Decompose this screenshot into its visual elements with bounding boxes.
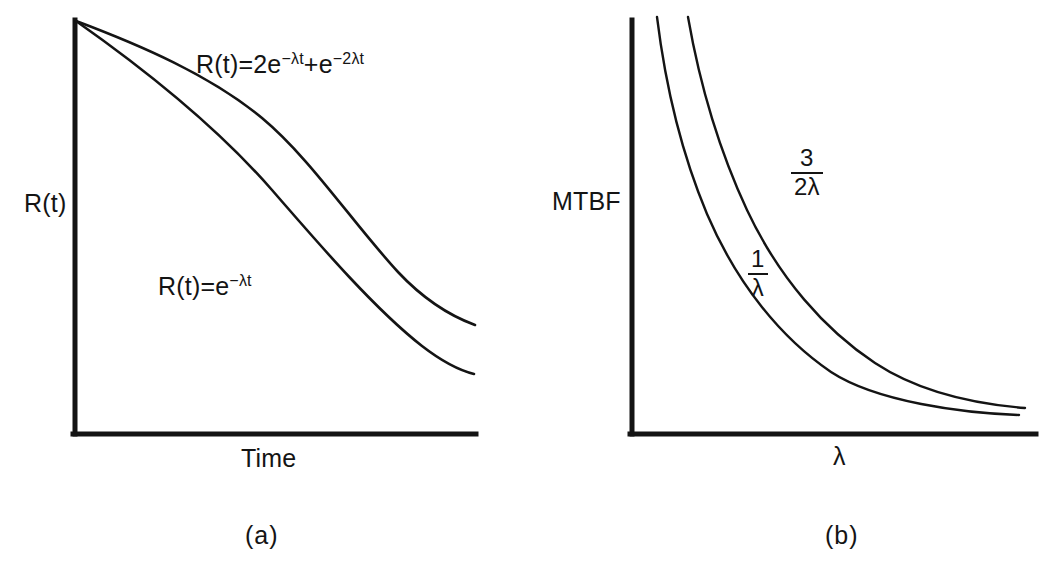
caption-a: (a) [245, 523, 279, 548]
curve-label-upper-a-sup2: −2λt [333, 50, 365, 67]
panel-b: MTBF λ 3 2λ 1 λ (b) [523, 0, 1046, 582]
fraction-denominator: 2λ [791, 174, 823, 200]
panel-a: R(t) Time R(t)=2e−λt+e−2λt R(t)=e−λt (a) [0, 0, 523, 582]
fraction-three-over-two-lambda: 3 2λ [791, 146, 823, 200]
caption-b: (b) [825, 523, 859, 548]
curve-upper-b [688, 17, 1025, 408]
y-axis-label-b: MTBF [552, 189, 621, 214]
panel-b-plot [523, 0, 1046, 582]
curve-label-lower-a-prefix: R(t)=e [158, 272, 229, 300]
curve-label-lower-b: 1 λ [748, 247, 768, 301]
curve-lower-b [657, 17, 1019, 415]
curve-label-upper-a-mid: +e [304, 50, 333, 78]
figure-container: R(t) Time R(t)=2e−λt+e−2λt R(t)=e−λt (a)… [0, 0, 1046, 582]
y-axis-label-a: R(t) [24, 191, 66, 216]
panel-a-plot [0, 0, 523, 582]
x-axis-label-a: Time [241, 446, 296, 471]
curve-label-upper-a: R(t)=2e−λt+e−2λt [196, 52, 364, 77]
fraction-numerator: 3 [791, 146, 823, 174]
curve-label-upper-a-prefix: R(t)=2e [196, 50, 281, 78]
curve-label-upper-a-sup1: −λt [281, 50, 303, 67]
fraction-one-over-lambda: 1 λ [748, 247, 768, 301]
curve-label-upper-b: 3 2λ [791, 146, 823, 200]
fraction-numerator: 1 [748, 247, 768, 275]
curve-label-lower-a-sup: −λt [229, 272, 251, 289]
x-axis-label-b: λ [833, 444, 846, 469]
fraction-denominator: λ [748, 275, 768, 301]
curve-label-lower-a: R(t)=e−λt [158, 274, 252, 299]
